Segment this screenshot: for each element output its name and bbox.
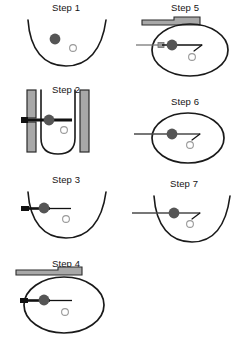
step-3-graphic <box>14 174 118 252</box>
ellipse-boundary-icon <box>152 24 228 76</box>
filled-particle-icon <box>44 115 55 126</box>
panel-step-4: Step 4 <box>12 258 120 340</box>
panel-step-5: Step 5 <box>132 2 238 84</box>
filled-particle-icon <box>39 295 50 306</box>
filled-particle-icon <box>39 203 50 214</box>
hollow-particle-icon <box>61 127 68 134</box>
hook-connector-icon <box>192 134 200 140</box>
ellipse-boundary-icon <box>24 277 104 333</box>
step-5-graphic <box>132 2 238 84</box>
left-bar-upper-icon <box>27 90 36 118</box>
panel-step-6: Step 6 <box>132 96 238 174</box>
step-1-graphic <box>14 2 118 80</box>
hook-connector-icon <box>194 45 202 51</box>
well-curve-icon <box>28 20 106 66</box>
hollow-particle-icon <box>70 45 77 52</box>
filled-particle-icon <box>167 40 178 51</box>
step-6-graphic <box>132 96 238 174</box>
panel-step-3: Step 3 <box>14 174 118 252</box>
right-bar-icon <box>80 90 89 152</box>
hollow-particle-icon <box>63 216 70 223</box>
hollow-particle-icon <box>187 142 194 149</box>
filled-particle-icon <box>167 129 178 140</box>
step-4-graphic <box>12 258 120 340</box>
hollow-particle-icon <box>62 309 69 316</box>
panel-step-1: Step 1 <box>14 2 118 80</box>
step-7-graphic <box>130 178 238 256</box>
left-bar-lower-icon <box>27 122 36 152</box>
ellipse-boundary-icon <box>152 113 224 163</box>
hook-connector-icon <box>192 213 200 219</box>
filled-particle-icon <box>50 34 61 45</box>
panel-step-7: Step 7 <box>130 178 238 256</box>
panel-step-2: Step 2 <box>14 84 118 164</box>
process-diagram: Step 1 Step 2 Step 3 <box>0 0 240 342</box>
step-2-graphic <box>14 84 118 164</box>
well-curve-icon <box>28 192 106 238</box>
filled-particle-icon <box>169 208 180 219</box>
hollow-particle-icon <box>187 221 194 228</box>
stepped-bar-icon <box>16 267 82 275</box>
hollow-particle-icon <box>189 54 196 61</box>
